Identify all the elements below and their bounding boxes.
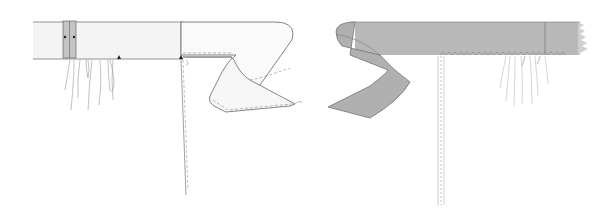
waistband-dark: [355, 22, 580, 55]
waistband-light: [33, 22, 183, 59]
gather-lines-right: [500, 56, 548, 106]
folded-waistband-end: [181, 22, 302, 112]
belt-loop-tab: [63, 21, 76, 58]
side-seam-dark: [438, 56, 444, 205]
right-panel: [328, 22, 588, 205]
gather-lines: [65, 60, 114, 110]
left-panel: [33, 21, 302, 195]
side-seam: [181, 59, 188, 195]
waistband-diagram: [0, 0, 612, 216]
fabric-edge: [578, 22, 588, 55]
